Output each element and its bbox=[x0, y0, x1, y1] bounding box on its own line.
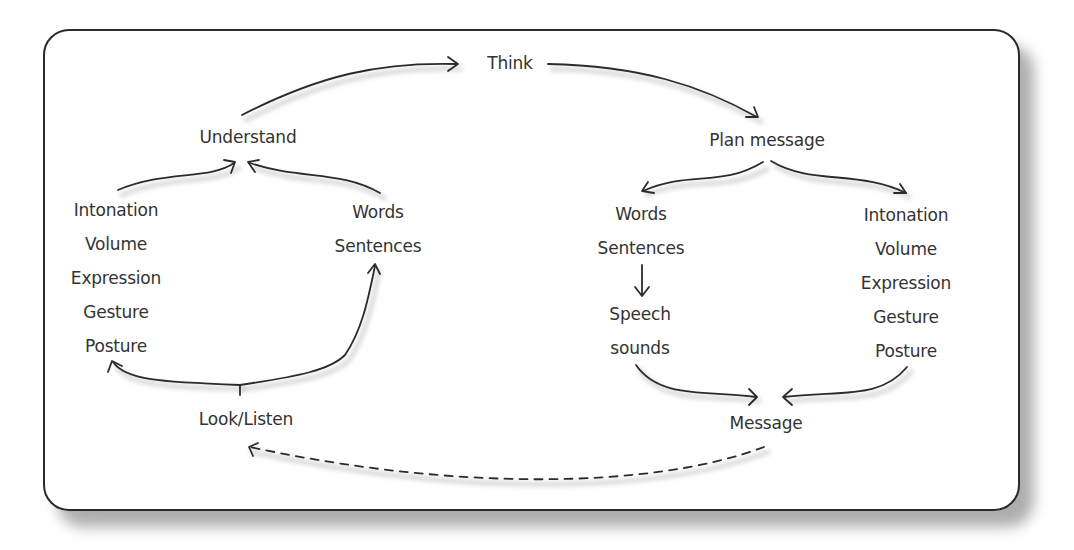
list-item: Expression bbox=[861, 266, 951, 300]
list-item: Sentences bbox=[598, 231, 685, 265]
node-look-listen: Look/Listen bbox=[199, 411, 293, 428]
receive-verbal-list: Words Sentences bbox=[335, 195, 422, 263]
list-item: Speech bbox=[609, 297, 670, 331]
list-item: Intonation bbox=[864, 198, 949, 232]
list-item: Gesture bbox=[873, 300, 939, 334]
node-message: Message bbox=[729, 415, 802, 432]
list-item: Posture bbox=[875, 334, 937, 368]
send-nonverbal-list: Intonation Volume Expression Gesture Pos… bbox=[861, 198, 951, 368]
list-item: Volume bbox=[85, 227, 147, 261]
node-plan-message: Plan message bbox=[709, 132, 825, 149]
send-verbal-list: Words Sentences bbox=[598, 197, 685, 265]
node-think: Think bbox=[487, 55, 533, 72]
send-speech-list: Speech sounds bbox=[609, 297, 670, 365]
list-item: Sentences bbox=[335, 229, 422, 263]
list-item: Posture bbox=[85, 329, 147, 363]
node-understand: Understand bbox=[200, 129, 297, 146]
list-item: sounds bbox=[610, 331, 669, 365]
list-item: Volume bbox=[875, 232, 937, 266]
list-item: Intonation bbox=[74, 193, 159, 227]
receive-nonverbal-list: Intonation Volume Expression Gesture Pos… bbox=[71, 193, 161, 363]
list-item: Words bbox=[615, 197, 667, 231]
list-item: Expression bbox=[71, 261, 161, 295]
list-item: Gesture bbox=[83, 295, 149, 329]
list-item: Words bbox=[352, 195, 404, 229]
